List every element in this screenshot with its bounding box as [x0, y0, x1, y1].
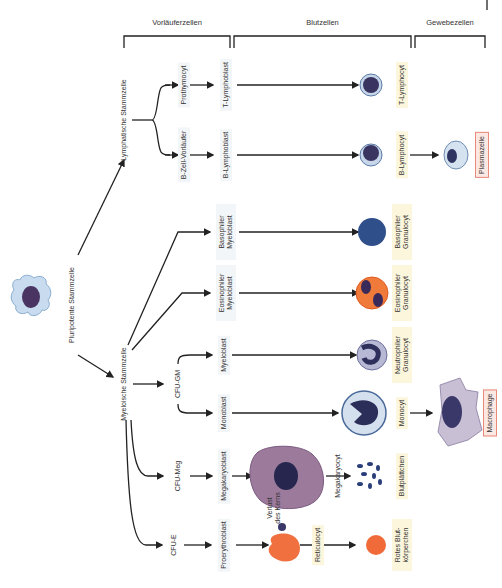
myeloid-stem-cell-label: Myeloische Stammzelle [119, 346, 129, 422]
red-blood-cell-box: Rotes Blut-körperchen [392, 519, 412, 571]
reticulocyt-box: Reticulocyt [312, 525, 324, 565]
cfu-gm-label: CFU-GM [173, 369, 183, 399]
pluripotent-stem-cell-label: Pluripotente Stammzelle [67, 266, 77, 344]
cfu-e-label: CFU-E [169, 533, 179, 556]
lymphatic-stem-cell-label: Lymphatische Stammzelle [119, 78, 129, 161]
prothymocyt-box: Prothymocyt [178, 63, 190, 108]
neutrophil-granulocyt-box: Neutrophiler Granulocyt [392, 327, 412, 383]
platelets-box: Blutplättchen [396, 453, 408, 499]
cfu-meg-label: CFU-Meg [173, 460, 183, 492]
header-tissue-cells: Gewebezellen [415, 18, 485, 27]
monoblast-box: Monoblast [218, 394, 230, 432]
myeloblast-box: Myeloblast [218, 335, 230, 374]
basophil-granulocyt-box: Basophiler Granulocyt [392, 204, 412, 260]
macrophage-box: Macrophage [483, 390, 497, 437]
header-precursor-cells: Vorläuferzellen [124, 18, 230, 27]
eosinophil-myeloblast-box: Eosinophiler Myeloblast [216, 265, 236, 321]
b-lymphoblast-box: B-Lymphoblast [220, 129, 232, 181]
pluripotent-stem-cell-illustration [11, 275, 51, 315]
header-blood-cells: Blutzellen [234, 18, 411, 27]
plasma-cell-box: Plasmazelle [475, 132, 489, 178]
basophil-myeloblast-box: Basophiler Myeloblast [216, 204, 236, 260]
eosinophil-granulocyt-box: Eosinophiler Granulocyt [392, 265, 412, 321]
megakaryoblast-box: Megakaryoblast [218, 448, 230, 503]
megakaryocyt-label: Megakaryocyt [333, 453, 343, 499]
b-lymphocyt-box: B-Lymphocyt [396, 132, 408, 179]
proerythroblast-box: Proerythroblast [218, 518, 230, 571]
t-lymphocyt-box: T-Lymphocyt [396, 62, 408, 108]
monocyt-box: Monocyt [396, 397, 408, 429]
b-cell-precursor-box: B-Zell-Vorläufer [178, 128, 190, 183]
t-lymphoblast-box: T-Lymphoblast [220, 59, 232, 111]
loss-of-nucleus-label: Verlust des Kerns [265, 491, 283, 525]
